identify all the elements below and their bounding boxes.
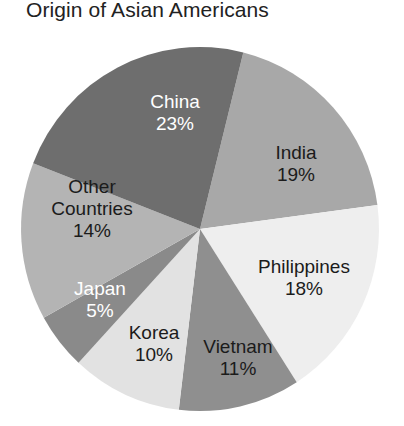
pie-chart-svg — [0, 0, 404, 426]
pie-chart — [0, 0, 404, 426]
pie-chart-figure: Origin of Asian Americans — [0, 0, 404, 426]
pie-slices — [21, 47, 379, 411]
